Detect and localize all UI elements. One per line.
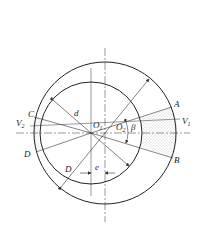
label-D-diameter: D [64,164,72,174]
label-A: A [173,99,180,109]
label-C: C [28,109,35,119]
line-to-D [36,133,91,152]
label-B: B [174,155,180,165]
beta-arc [126,122,128,143]
diagram-canvas: A B C D V1 V2 d D O1 O2 β e [0,0,205,237]
label-beta: β [130,122,136,132]
shaded-region-right [141,107,177,158]
label-V1: V1 [182,116,191,127]
label-O2: O2 [116,122,126,133]
label-V2: V2 [16,118,25,129]
line-to-C [34,117,91,133]
label-e: e [95,162,99,172]
label-D-point: D [23,149,31,159]
label-O1: O1 [93,120,103,131]
label-d: d [74,108,79,118]
